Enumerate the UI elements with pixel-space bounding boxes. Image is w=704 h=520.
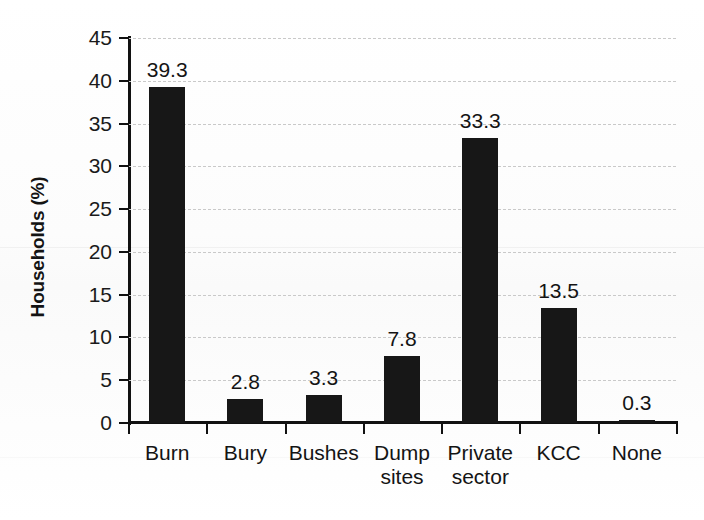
bar[interactable] <box>619 420 655 423</box>
y-axis-tick-label: 15 <box>62 284 112 305</box>
y-axis-tick <box>119 336 129 338</box>
y-axis-tick <box>119 37 129 39</box>
bar[interactable] <box>227 399 263 423</box>
bar-value-label: 2.8 <box>200 371 290 392</box>
y-axis-tick <box>119 165 129 167</box>
x-axis-tick <box>441 423 443 434</box>
x-axis-category-label: Dump sites <box>359 441 445 489</box>
bar-value-label: 7.8 <box>357 328 447 349</box>
x-axis-tick <box>206 423 208 434</box>
bar-value-label: 39.3 <box>122 59 212 80</box>
x-axis-category-label: Bushes <box>281 441 367 465</box>
y-axis-tick-label: 35 <box>62 113 112 134</box>
y-axis-tick <box>119 251 129 253</box>
x-axis-tick <box>128 423 130 434</box>
x-axis-tick <box>598 423 600 434</box>
bar-value-label: 0.3 <box>592 392 682 413</box>
x-axis-category-label: Burn <box>124 441 210 465</box>
x-axis-tick <box>363 423 365 434</box>
gridline <box>128 124 676 125</box>
bar[interactable] <box>462 138 498 423</box>
bar[interactable] <box>541 308 577 424</box>
x-axis-tick <box>519 423 521 434</box>
y-axis-tick <box>119 208 129 210</box>
x-axis-category-label: Private sector <box>437 441 523 489</box>
bar-value-label: 3.3 <box>279 367 369 388</box>
y-axis-tick-label: 20 <box>62 241 112 262</box>
y-axis-tick-label: 10 <box>62 326 112 347</box>
y-axis-tick <box>119 379 129 381</box>
plot-area: 45403530252015105039.3Burn2.8Bury3.3Bush… <box>128 38 676 423</box>
y-axis-title: Households (%) <box>27 147 49 347</box>
y-axis-tick <box>119 123 129 125</box>
gridline <box>128 81 676 82</box>
y-axis-tick-label: 25 <box>62 198 112 219</box>
bar[interactable] <box>306 395 342 423</box>
y-axis-tick-label: 5 <box>62 369 112 390</box>
y-axis-tick-label: 0 <box>62 412 112 433</box>
bar-value-label: 13.5 <box>514 280 604 301</box>
x-axis-category-label: Bury <box>202 441 288 465</box>
gridline <box>128 166 676 167</box>
x-axis-tick <box>285 423 287 434</box>
gridline <box>128 252 676 253</box>
gridline <box>128 38 676 39</box>
bar[interactable] <box>149 87 185 423</box>
y-axis-tick <box>119 80 129 82</box>
bar-chart: Households (%) 45403530252015105039.3Bur… <box>0 0 704 520</box>
y-axis-tick-label: 40 <box>62 70 112 91</box>
x-axis-category-label: KCC <box>515 441 601 465</box>
y-axis-tick-label: 45 <box>62 27 112 48</box>
gridline <box>128 209 676 210</box>
y-axis-tick <box>119 294 129 296</box>
x-axis-category-label: None <box>594 441 680 465</box>
bar[interactable] <box>384 356 420 423</box>
x-axis-tick <box>676 423 678 434</box>
y-axis-tick-label: 30 <box>62 155 112 176</box>
bar-value-label: 33.3 <box>435 110 525 131</box>
